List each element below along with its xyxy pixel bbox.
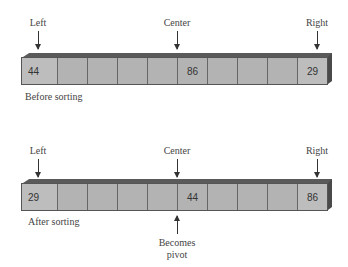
down-arrow-icon bbox=[38, 31, 39, 49]
array-cell: 29 bbox=[22, 184, 58, 210]
array-side-face bbox=[328, 179, 332, 210]
down-arrow-icon bbox=[177, 31, 178, 49]
array-cell bbox=[268, 58, 298, 84]
down-arrow-icon bbox=[38, 159, 39, 177]
right-pointer-label: Right bbox=[306, 145, 328, 156]
caption-before-sorting: Before sorting bbox=[25, 91, 83, 102]
array-cell bbox=[88, 58, 118, 84]
array-cell: 44 bbox=[22, 58, 58, 84]
center-pointer-label: Center bbox=[164, 145, 191, 156]
annotation-line1: Becomes bbox=[159, 237, 196, 248]
array-cell bbox=[208, 58, 238, 84]
array-cell bbox=[118, 58, 148, 84]
down-arrow-icon bbox=[317, 31, 318, 49]
center-pointer-label: Center bbox=[164, 17, 191, 28]
caption-after-sorting: After sorting bbox=[28, 216, 79, 227]
array-cell bbox=[118, 184, 148, 210]
array-cell: 44 bbox=[178, 184, 208, 210]
array-cell bbox=[88, 184, 118, 210]
array-cell: 86 bbox=[298, 184, 327, 210]
array-cell bbox=[148, 58, 178, 84]
array-cell bbox=[208, 184, 238, 210]
array-cell: 29 bbox=[298, 58, 327, 84]
array-cell bbox=[58, 184, 88, 210]
up-arrow-icon bbox=[177, 216, 178, 234]
annotation-line2: pivot bbox=[167, 249, 188, 260]
left-pointer-label: Left bbox=[30, 145, 47, 156]
array-after: 29 44 86 bbox=[21, 183, 328, 211]
array-cell bbox=[148, 184, 178, 210]
array-cell bbox=[268, 184, 298, 210]
array-cell bbox=[238, 184, 268, 210]
array-cell bbox=[238, 58, 268, 84]
array-before: 44 86 29 bbox=[21, 57, 328, 85]
array-cell: 86 bbox=[178, 58, 208, 84]
array-side-face bbox=[328, 53, 332, 84]
array-cell bbox=[58, 58, 88, 84]
down-arrow-icon bbox=[177, 159, 178, 177]
left-pointer-label: Left bbox=[30, 17, 47, 28]
right-pointer-label: Right bbox=[306, 17, 328, 28]
down-arrow-icon bbox=[317, 159, 318, 177]
